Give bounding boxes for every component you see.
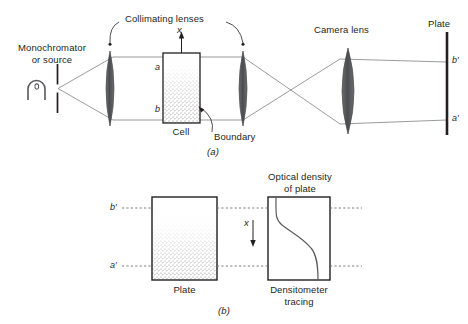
source-lamp-icon <box>28 81 45 100</box>
panel-b-level-a-prime-label: a′ <box>110 260 117 272</box>
x-axis-arrow-panel-b <box>250 220 255 247</box>
densitometer-label-line1: Densitometer <box>255 284 343 296</box>
source-label-line1: Monochromator <box>8 42 96 54</box>
x-axis-label-panel-a: x <box>177 24 182 36</box>
collimating-lens-2 <box>239 51 247 126</box>
plate-label-panel-b: Plate <box>152 284 217 296</box>
optical-density-label-line1: Optical density <box>252 171 348 183</box>
panel-b-caption: (b) <box>218 305 230 317</box>
panel-b-level-b-prime-label: b′ <box>110 202 117 214</box>
cell-level-a-label: a <box>155 62 160 74</box>
densitometer-label-line2: tracing <box>255 296 343 308</box>
cell-label: Cell <box>152 126 210 138</box>
camera-lens-label: Camera lens <box>314 24 369 36</box>
x-axis-label-panel-b: x <box>244 217 249 229</box>
beam-lens-to-plate <box>340 59 447 124</box>
beam-crossing <box>243 57 340 124</box>
plate-level-b-prime-label: b′ <box>452 55 459 67</box>
camera-lens <box>342 48 354 134</box>
plate-label-panel-a: Plate <box>428 18 450 30</box>
densitometer-box <box>268 197 330 280</box>
leader-collimating-lens-1 <box>109 22 120 46</box>
cell-level-b-label: b <box>155 104 160 116</box>
panel-a-caption: (a) <box>207 146 219 158</box>
plate-box-panel-b <box>152 197 217 280</box>
leader-collimating-lens-2 <box>226 22 245 46</box>
optical-density-label-line2: of plate <box>252 183 348 195</box>
beam-source-to-lens1 <box>58 57 113 120</box>
plate-level-a-prime-label: a′ <box>452 113 459 125</box>
collimating-lens-1 <box>106 51 114 126</box>
source-label-line2: or source <box>8 54 96 66</box>
collimating-lenses-label: Collimating lenses <box>125 13 204 25</box>
figure-optical-schematic: Monochromator or source Collimating lens… <box>0 0 468 324</box>
cell-cuvette <box>163 53 200 123</box>
boundary-label: Boundary <box>214 131 255 143</box>
